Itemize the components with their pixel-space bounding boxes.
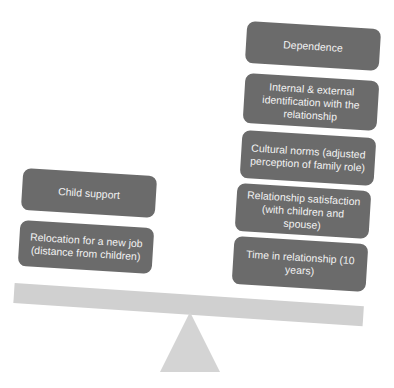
right-item-dependence: Dependence [245, 21, 381, 71]
right-item-identification: Internal & external identification with … [243, 73, 380, 131]
left-item-label: Child support [58, 185, 121, 202]
right-item-cultural-norms: Cultural norms (adjusted perception of f… [240, 130, 377, 186]
right-item-label: Time in relationship (10 years) [238, 247, 361, 280]
right-item-label: Relationship satisfaction (with children… [241, 188, 365, 234]
right-item-label: Internal & external identification with … [249, 79, 373, 125]
left-item-relocation: Relocation for a new job (distance from … [18, 220, 155, 274]
scale-fulcrum [160, 312, 220, 372]
right-item-time-in-relationship: Time in relationship (10 years) [232, 236, 369, 292]
right-item-relationship-satisfaction: Relationship satisfaction (with children… [235, 183, 372, 239]
left-item-child-support: Child support [21, 168, 157, 218]
left-item-label: Relocation for a new job (distance from … [24, 230, 147, 263]
right-item-label: Dependence [283, 38, 343, 55]
right-item-label: Cultural norms (adjusted perception of f… [246, 141, 369, 174]
